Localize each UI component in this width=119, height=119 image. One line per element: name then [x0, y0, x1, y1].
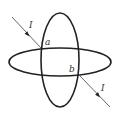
- outgoing-wire: [79, 75, 110, 107]
- outgoing-current-label: I: [100, 83, 105, 93]
- two-rings-current-diagram: I I a b: [0, 0, 119, 119]
- incoming-arrow-icon: [25, 31, 30, 36]
- horizontal-ring: [9, 48, 111, 76]
- point-b-label: b: [69, 64, 75, 74]
- point-a-label: a: [45, 37, 50, 47]
- vertical-ring: [41, 13, 79, 107]
- incoming-current-label: I: [28, 20, 33, 30]
